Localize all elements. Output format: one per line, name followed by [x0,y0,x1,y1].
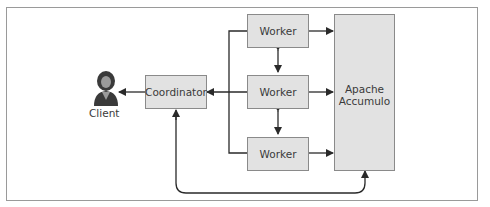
worker-label: Worker [260,25,297,37]
worker-node-3: Worker [247,137,309,171]
accumulo-label: Apache Accumulo [339,83,390,107]
client-node [92,70,120,106]
worker-label: Worker [260,86,297,98]
worker-node-1: Worker [247,14,309,48]
person-icon [92,70,120,106]
accumulo-node: Apache Accumulo [334,14,395,171]
worker-node-2: Worker [247,75,309,109]
coordinator-node: Coordinator [145,75,207,109]
client-label: Client [89,107,119,119]
connector-lines [0,0,490,207]
worker-label: Worker [260,148,297,160]
coordinator-label: Coordinator [145,86,207,98]
